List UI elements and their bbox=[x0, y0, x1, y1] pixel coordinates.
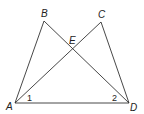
segment-cd bbox=[101, 22, 129, 103]
geometry-figure: B C E A D 1 2 bbox=[0, 0, 144, 114]
label-d: D bbox=[130, 102, 137, 113]
segment-bd bbox=[44, 21, 129, 103]
angle-2-label: 2 bbox=[112, 93, 117, 103]
label-a: A bbox=[5, 101, 13, 112]
segment-ab bbox=[15, 21, 44, 103]
angle-1-label: 1 bbox=[27, 93, 32, 103]
label-e: E bbox=[69, 35, 76, 46]
label-c: C bbox=[98, 9, 106, 20]
label-b: B bbox=[41, 8, 48, 19]
